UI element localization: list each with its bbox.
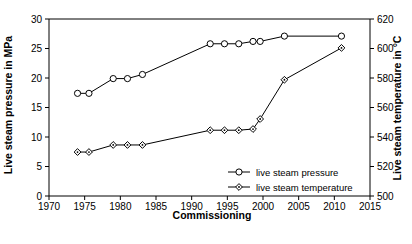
data-point-marker-center [259, 118, 261, 120]
x-tick-label: 1985 [145, 201, 168, 212]
data-point-marker-center [252, 128, 254, 130]
y-left-tick-label: 10 [31, 132, 43, 143]
y-left-tick-label: 30 [31, 14, 43, 25]
y-left-tick-label: 20 [31, 73, 43, 84]
x-tick-label: 1975 [74, 201, 97, 212]
y-left-tick-label: 15 [31, 102, 43, 113]
data-point-marker-center [77, 151, 79, 153]
chart-background [0, 0, 412, 244]
y-right-tick-label: 520 [377, 161, 394, 172]
legend-marker-center [238, 186, 240, 188]
data-point-marker [74, 90, 80, 96]
data-point-marker-center [88, 151, 90, 153]
data-point-marker [250, 38, 256, 44]
data-point-marker [257, 38, 263, 44]
y-right-tick-label: 600 [377, 43, 394, 54]
x-tick-label: 1970 [38, 201, 61, 212]
x-tick-label: 2005 [288, 201, 311, 212]
data-point-marker [110, 75, 116, 81]
dual-axis-line-chart: Live steam pressure in MPa Live steam te… [0, 0, 412, 244]
y-left-tick-label: 5 [36, 161, 42, 172]
data-point-marker-center [209, 129, 211, 131]
data-point-marker [207, 41, 213, 47]
x-tick-label: 2015 [359, 201, 382, 212]
y-right-tick-label: 560 [377, 102, 394, 113]
x-tick-label: 1995 [216, 201, 239, 212]
x-tick-label: 1990 [181, 201, 204, 212]
y-right-tick-label: 620 [377, 14, 394, 25]
chart-figure: Live steam pressure in MPa Live steam te… [0, 0, 412, 244]
x-tick-label: 1980 [109, 201, 132, 212]
data-point-marker [236, 41, 242, 47]
y-left-tick-label: 25 [31, 43, 43, 54]
data-point-marker [221, 41, 227, 47]
legend-marker [236, 169, 242, 175]
data-point-marker [124, 75, 130, 81]
data-point-marker-center [112, 144, 114, 146]
data-point-marker-center [224, 129, 226, 131]
data-point-marker [281, 33, 287, 39]
data-point-marker-center [341, 47, 343, 49]
chart-legend: live steam pressurelive steam temperatur… [222, 161, 360, 195]
y-left-tick-label: 0 [36, 191, 42, 202]
legend-label: live steam pressure [256, 167, 338, 178]
data-point-marker [338, 33, 344, 39]
data-point-marker [139, 71, 145, 77]
x-tick-label: 2000 [252, 201, 275, 212]
data-point-marker-center [127, 144, 129, 146]
y-right-tick-label: 540 [377, 132, 394, 143]
y-left-axis-title: Live steam pressure in MPa [2, 36, 14, 174]
y-right-tick-label: 580 [377, 73, 394, 84]
x-tick-label: 2010 [323, 201, 346, 212]
data-point-marker [86, 90, 92, 96]
data-point-marker-center [238, 129, 240, 131]
data-point-marker-center [284, 79, 286, 81]
y-left-axis-title-text: Live steam pressure in MPa [2, 36, 14, 174]
legend-label: live steam temperature [256, 182, 353, 193]
y-right-tick-label: 500 [377, 191, 394, 202]
data-point-marker-center [142, 144, 144, 146]
